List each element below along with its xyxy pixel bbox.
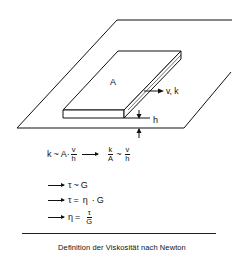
area-label: A	[110, 78, 116, 87]
fraction-tau-over-g: τ G	[86, 209, 92, 225]
force-symbol: k	[47, 149, 52, 159]
multiply-dot: ·	[67, 149, 70, 159]
plate-front-face	[63, 110, 124, 118]
proportional-sign: ~	[54, 149, 59, 159]
formula-eta-equals-tau-over-g: η = τ G	[48, 209, 93, 225]
viscosity-diagram	[0, 0, 244, 140]
velocity-force-label: v, k	[166, 87, 179, 96]
fraction-k-over-a: k A	[108, 146, 114, 162]
plane-right-edge	[184, 72, 231, 128]
fraction-v-over-h: v h	[71, 146, 77, 162]
implies-arrow-icon	[48, 200, 64, 201]
formula-proportionality: k ~ A · v h k A ~ v h	[47, 146, 131, 162]
implies-arrow-icon	[82, 154, 98, 155]
fraction-v-over-h: v h	[125, 146, 131, 162]
implies-arrow-icon	[48, 217, 64, 218]
figure-caption: Definition der Viskosität nach Newton	[0, 243, 244, 252]
proportional-sign: ~	[116, 149, 121, 159]
caption-divider	[22, 233, 216, 234]
height-label: h	[153, 116, 158, 125]
formula-tau-proportional-g: τ ~ G	[48, 180, 88, 190]
formula-tau-equals-eta-g: τ = η · G	[48, 195, 104, 205]
moving-plate	[63, 51, 181, 118]
height-arrow-bottom	[137, 128, 142, 138]
implies-arrow-icon	[48, 185, 64, 186]
